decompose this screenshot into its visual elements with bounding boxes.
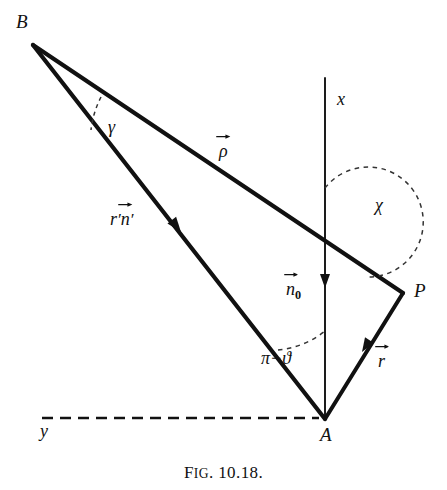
prime-mark-n: ′ <box>130 210 134 229</box>
axis-label-y: y <box>40 422 48 440</box>
figure-caption: FIG. 10.18. <box>0 463 447 483</box>
vertex-label-A: A <box>320 425 332 444</box>
angle-arc-chi <box>325 167 423 277</box>
caption-prefix: F <box>184 463 194 482</box>
vertex-label-B: B <box>16 12 28 31</box>
angle-label-chi: χ <box>375 196 383 214</box>
angle-label-gamma: γ <box>108 118 115 136</box>
vector-glyph-r: r <box>378 352 385 370</box>
caption-number: . 10.18. <box>209 463 263 482</box>
vector-label-r-prime-n-prime: r′n ′ <box>110 210 134 228</box>
segment-B-P <box>33 45 403 293</box>
figure-container: B A P x y γ χ π−ϑ ρ r′n ′ n <box>0 0 447 490</box>
vector-glyph-n-prime: n <box>121 210 130 228</box>
vector-glyph-r-prime: r <box>110 209 117 229</box>
subscript-zero: 0 <box>295 288 301 302</box>
caption-smallcaps: IG <box>194 466 209 481</box>
vector-glyph-n-zero: n <box>286 280 295 298</box>
segment-A-P <box>325 293 403 419</box>
vector-label-n-zero: n 0 <box>286 280 301 301</box>
axis-label-x: x <box>337 90 345 108</box>
vector-label-r: r <box>378 352 385 370</box>
angle-label-pi-minus-theta: π−ϑ <box>261 349 291 367</box>
vector-glyph-rho: ρ <box>219 142 228 160</box>
vertex-label-P: P <box>414 281 426 300</box>
vector-label-rho: ρ <box>219 142 228 160</box>
figure-drawing-canvas <box>0 0 447 490</box>
arrowhead-n-zero <box>320 274 330 288</box>
